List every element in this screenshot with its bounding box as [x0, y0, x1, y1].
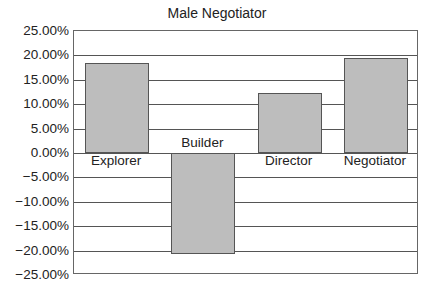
- bar-explorer: [85, 63, 149, 153]
- y-tick-label: −25.00%: [15, 267, 69, 282]
- category-label: Builder: [181, 135, 223, 150]
- y-tick-label: 10.00%: [23, 96, 69, 111]
- gridline: [74, 226, 417, 227]
- y-tick-label: −5.00%: [23, 169, 69, 184]
- bar-negotiator: [344, 58, 408, 153]
- bar-director: [258, 93, 322, 153]
- y-tick-label: −10.00%: [15, 193, 69, 208]
- gridline: [74, 177, 417, 178]
- chart-title: Male Negotiator: [0, 5, 434, 21]
- y-tick-label: 5.00%: [31, 120, 69, 135]
- plot-area: [73, 30, 418, 274]
- category-label: Director: [265, 153, 312, 168]
- y-tick-label: −15.00%: [15, 218, 69, 233]
- category-label: Explorer: [91, 153, 141, 168]
- y-tick-label: 0.00%: [31, 145, 69, 160]
- y-tick-label: 25.00%: [23, 23, 69, 38]
- category-label: Negotiator: [344, 153, 406, 168]
- y-tick-label: 15.00%: [23, 71, 69, 86]
- gridline: [74, 202, 417, 203]
- gridline: [74, 251, 417, 252]
- gridline: [74, 55, 417, 56]
- y-tick-label: −20.00%: [15, 242, 69, 257]
- y-tick-label: 20.00%: [23, 47, 69, 62]
- bar-builder: [171, 153, 235, 254]
